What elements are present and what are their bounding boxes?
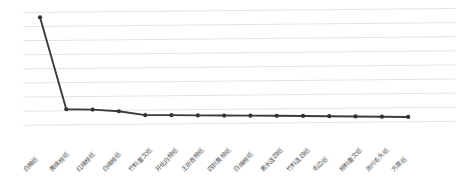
data-point-marker bbox=[327, 114, 331, 118]
data-point-marker bbox=[64, 107, 68, 111]
x-tick-label: 黄绵榜纸 bbox=[48, 151, 70, 173]
gridline bbox=[23, 9, 455, 13]
line-chart: 白棉纸黄绵榜纸红绵榜纸白绵榜纸竹料重文纸开化白榜纸王折青榜纸四折黄榜纸白绵榜纸素… bbox=[0, 0, 461, 179]
data-point-marker bbox=[354, 114, 358, 118]
data-point-marker bbox=[406, 115, 410, 119]
data-point-marker bbox=[275, 114, 279, 118]
x-axis-tick-labels: 白棉纸黄绵榜纸红绵榜纸白绵榜纸竹料重文纸开化白榜纸王折青榜纸四折黄榜纸白绵榜纸素… bbox=[22, 147, 408, 174]
x-tick-label: 白绵榜纸 bbox=[232, 151, 254, 173]
data-point-marker bbox=[248, 114, 252, 118]
data-point-marker bbox=[196, 113, 200, 117]
gridline bbox=[23, 65, 455, 69]
x-tick-label: 王折青榜纸 bbox=[180, 147, 207, 174]
data-point-marker bbox=[117, 109, 121, 113]
gridline bbox=[23, 93, 455, 97]
chart-canvas: 白棉纸黄绵榜纸红绵榜纸白绵榜纸竹料重文纸开化白榜纸王折青榜纸四折黄榜纸白绵榜纸素… bbox=[0, 0, 461, 179]
x-tick-label: 素水连四纸 bbox=[258, 147, 285, 174]
gridline bbox=[23, 51, 455, 55]
data-point-marker bbox=[380, 115, 384, 119]
gridline-group bbox=[23, 9, 455, 126]
data-point-marker bbox=[91, 108, 95, 112]
x-tick-label: 榜料重文纸 bbox=[337, 147, 364, 174]
data-point-marker bbox=[143, 113, 147, 117]
data-point-marker bbox=[301, 114, 305, 118]
gridline bbox=[23, 23, 455, 27]
x-tick-label: 方票纸 bbox=[390, 155, 408, 173]
x-tick-label: 竹料重文纸 bbox=[127, 147, 154, 174]
gridline bbox=[23, 121, 455, 125]
x-tick-label: 毛边纸 bbox=[311, 155, 329, 173]
x-tick-label: 四折黄榜纸 bbox=[206, 147, 233, 174]
data-point-marker bbox=[38, 15, 42, 19]
gridline bbox=[23, 37, 455, 41]
data-point-marker bbox=[222, 113, 226, 117]
gridline bbox=[23, 79, 455, 83]
x-tick-label: 池州毛头纸 bbox=[364, 147, 391, 174]
x-tick-label: 竹料连四纸 bbox=[285, 147, 312, 174]
x-tick-label: 白棉纸 bbox=[22, 155, 40, 173]
x-tick-label: 红绵榜纸 bbox=[74, 151, 96, 173]
data-point-marker bbox=[169, 113, 173, 117]
x-tick-label: 开化白榜纸 bbox=[153, 147, 180, 174]
x-tick-label: 白绵榜纸 bbox=[101, 151, 123, 173]
